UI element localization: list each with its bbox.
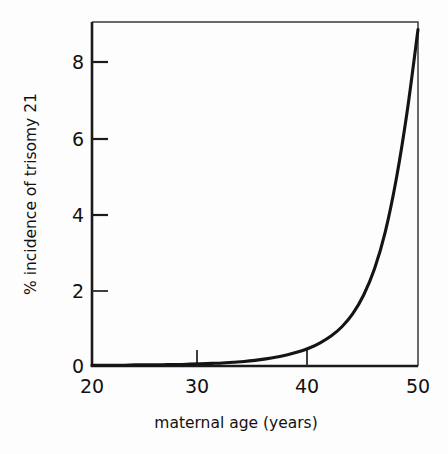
y-tick-label-6: 6 [72, 128, 84, 150]
y-tick-label-2: 2 [72, 280, 84, 302]
y-tick-label-4: 4 [72, 204, 84, 226]
incidence-vs-maternal-age-chart: 8 6 4 2 0 20 30 40 50 % incidence of tri… [0, 0, 448, 454]
y-axis-title: % incidence of trisomy 21 [22, 93, 40, 295]
chart-figure: 8 6 4 2 0 20 30 40 50 % incidence of tri… [0, 0, 448, 454]
x-tick-label-50: 50 [406, 375, 430, 397]
y-tick-label-8: 8 [72, 51, 84, 73]
x-tick-label-30: 30 [185, 375, 209, 397]
x-axis-title: maternal age (years) [154, 414, 317, 432]
x-tick-label-20: 20 [80, 375, 104, 397]
chart-background [0, 0, 448, 454]
y-tick-label-0: 0 [72, 355, 84, 377]
x-tick-label-40: 40 [295, 375, 319, 397]
